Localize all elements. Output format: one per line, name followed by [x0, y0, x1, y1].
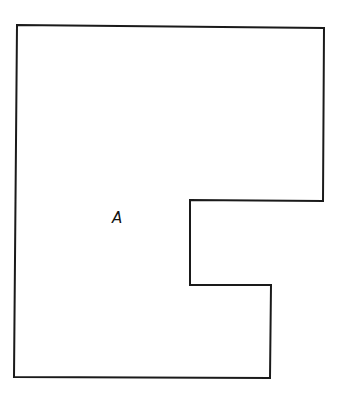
diagram-canvas: A [0, 0, 345, 403]
region-a-label: A [111, 209, 122, 227]
region-a-outline [14, 25, 324, 378]
